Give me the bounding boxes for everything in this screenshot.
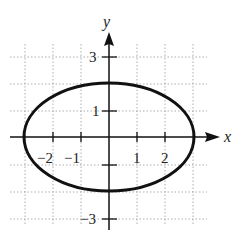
x-tick-label-neg1: −1 — [64, 150, 80, 166]
x-tick-label-1: 1 — [133, 150, 141, 166]
y-axis-label: y — [101, 13, 111, 31]
ellipse-graph: y x 3 1 −3 −2 −1 1 2 — [0, 0, 234, 231]
y-axis-arrow-icon — [104, 32, 114, 46]
y-axis — [102, 32, 117, 230]
y-tick-label-3: 3 — [89, 49, 97, 65]
x-axis — [10, 132, 220, 142]
x-tick-label-2: 2 — [161, 150, 169, 166]
x-tick-label-neg2: −2 — [37, 150, 53, 166]
y-tick-label-1: 1 — [92, 103, 100, 119]
x-axis-arrow-icon — [205, 132, 220, 142]
x-axis-label: x — [223, 128, 231, 145]
y-tick-label-neg3: −3 — [80, 211, 96, 227]
